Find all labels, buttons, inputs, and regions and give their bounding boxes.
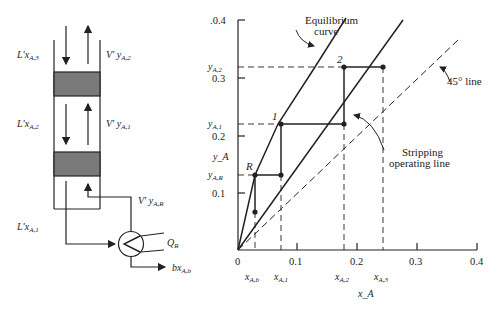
annotations: Equilibrium curve Stripping operating li… [305,14,482,169]
point-label-1: 1 [272,110,278,122]
stripping-operating-line [238,20,403,250]
svg-text:xA,3: xA,3 [373,271,388,284]
annotation-leaders [296,30,450,150]
svg-text:yA,R: yA,R [207,169,223,182]
y-axis-label: y_A [212,151,229,162]
y-tick-0.1: 0.1 [212,188,225,199]
svg-text:xA,1: xA,1 [273,271,288,284]
liquid-to-reboiler-line [66,181,115,244]
equilibrium-label-2: curve [314,25,339,37]
column-labels: L'xA,3 V' yA,2 L'xA,2 V' yA,1 L'xA,1 V' … [16,49,191,275]
heat-in-line [141,233,164,236]
y-tick-0.3: 0.3 [212,73,225,84]
point-R [252,172,257,177]
svg-text:yA,1: yA,1 [207,118,222,131]
stage-steps [255,67,383,212]
x-tick-0.1: 0.1 [289,256,302,267]
tick-labels: 0.1 0.2 0.3 .0.4 0 0.1 0.2 0.3 0.4 [210,15,484,267]
mccabe-thiele-chart: 0.1 0.2 0.3 .0.4 0 0.1 0.2 0.3 0.4 R 1 2… [207,14,484,299]
x-tick-0: 0 [235,256,240,267]
point-label-R: R [245,160,253,172]
stream-label-b-x-Ab: bxA,b [172,262,191,275]
point-2 [341,64,346,69]
stream-label-V-y-A1: V' yA,1 [106,118,131,131]
point-label-2: 2 [337,53,343,65]
stream-label-L-x-A3: L'xA,3 [16,49,39,62]
vapor-from-reboiler-line [88,184,131,231]
45-line-label: 45° line [447,75,482,87]
stripping-column-diagram: L'xA,3 V' yA,2 L'xA,2 V' yA,1 L'xA,1 V' … [0,0,503,312]
x-tick-0.3: 0.3 [409,256,422,267]
stripping-label-2: operating line [389,157,450,169]
heat-out-line [141,250,164,252]
svg-text:xA,2: xA,2 [334,271,349,284]
x-tick-0.2: 0.2 [350,256,363,267]
stream-label-L-x-A2: L'xA,2 [16,118,39,131]
svg-text:xA,b: xA,b [244,271,259,284]
stage-points [252,64,385,214]
stream-label-L-x-A1: L'xA,1 [16,221,39,234]
stream-label-V-y-A2: V' yA,2 [106,49,131,62]
x-marker-labels: xA,b xA,1 xA,2 xA,3 x_A [244,271,388,299]
guide-lines [238,67,383,250]
reboiler-icon [119,232,144,257]
point-labels: R 1 2 [245,53,343,172]
y-tick-0.2: 0.2 [212,131,225,142]
column-schematic [54,26,165,267]
45-degree-line [238,40,458,250]
bottoms-product-line [131,256,165,267]
stream-label-Q-R: QR [167,237,179,250]
x-tick-0.4: 0.4 [470,256,484,267]
y-tick-0.4: .0.4 [210,15,227,26]
tray-upper [54,72,100,96]
equilibrium-curve [238,18,346,250]
point-1 [278,121,283,126]
tray-lower [54,152,100,176]
x-axis-label: x_A [357,288,374,299]
stream-label-V-y-AR: V' yA,R [138,195,164,208]
svg-text:yA,2: yA,2 [207,61,222,74]
